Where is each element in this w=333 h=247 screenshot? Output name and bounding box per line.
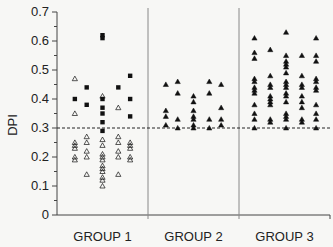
axes: 00.10.20.30.40.50.60.7GROUP 1GROUP 2GROU…: [31, 4, 330, 244]
filled-triangle-marker: [219, 117, 224, 122]
filled-triangle-marker: [252, 56, 257, 61]
filled-triangle-marker: [175, 79, 180, 84]
open-triangle-marker: [116, 154, 121, 159]
filled-triangle-marker: [299, 53, 304, 58]
filled-triangle-marker: [175, 91, 180, 96]
filled-triangle-marker: [252, 117, 257, 122]
filled-triangle-marker: [299, 99, 304, 104]
filled-triangle-marker: [314, 59, 319, 64]
filled-triangle-marker: [207, 91, 212, 96]
group-label: GROUP 1: [73, 229, 131, 244]
y-tick-label: 0.5: [31, 62, 49, 77]
scatter-chart: 00.10.20.30.40.50.60.7GROUP 1GROUP 2GROU…: [0, 0, 333, 247]
open-triangle-marker: [116, 134, 121, 139]
open-triangle-marker: [100, 183, 105, 188]
square-marker: [116, 85, 120, 89]
open-triangle-marker: [116, 140, 121, 145]
open-triangle-marker: [84, 154, 89, 159]
y-tick-label: 0.4: [31, 91, 49, 106]
y-tick-label: 0.1: [31, 178, 49, 193]
filled-triangle-marker: [219, 123, 224, 128]
group-label: GROUP 3: [255, 229, 313, 244]
square-marker: [100, 111, 104, 115]
y-tick-label: 0.2: [31, 149, 49, 164]
filled-triangle-marker: [219, 82, 224, 87]
filled-triangle-marker: [283, 53, 288, 58]
open-triangle-marker: [116, 105, 121, 110]
filled-triangle-marker: [268, 47, 273, 52]
open-triangle-marker: [84, 172, 89, 177]
filled-triangle-marker: [219, 105, 224, 110]
square-marker: [100, 120, 104, 124]
filled-triangle-marker: [314, 117, 319, 122]
filled-triangle-marker: [191, 99, 196, 104]
open-triangle-marker: [84, 149, 89, 154]
filled-triangle-marker: [314, 36, 319, 41]
filled-triangle-marker: [283, 70, 288, 75]
filled-triangle-marker: [207, 117, 212, 122]
filled-triangle-marker: [299, 73, 304, 78]
filled-triangle-marker: [314, 111, 319, 116]
filled-triangle-marker: [175, 117, 180, 122]
square-marker: [100, 129, 104, 133]
y-tick-label: 0.3: [31, 120, 49, 135]
y-tick-label: 0: [42, 207, 49, 222]
open-triangle-marker: [84, 140, 89, 145]
filled-triangle-marker: [252, 36, 257, 41]
filled-triangle-marker: [252, 111, 257, 116]
square-marker: [73, 97, 77, 101]
square-marker: [85, 103, 89, 107]
open-triangle-marker: [116, 172, 121, 177]
square-marker: [100, 97, 104, 101]
filled-triangle-marker: [207, 79, 212, 84]
filled-triangle-marker: [252, 102, 257, 107]
square-marker: [128, 97, 132, 101]
filled-triangle-marker: [252, 50, 257, 55]
filled-triangle-marker: [163, 82, 168, 87]
y-axis-label: DPI: [5, 114, 20, 136]
filled-triangle-marker: [268, 73, 273, 78]
filled-triangle-marker: [283, 30, 288, 35]
square-marker: [100, 36, 104, 40]
open-triangle-marker: [116, 149, 121, 154]
square-marker: [128, 114, 132, 118]
filled-triangle-marker: [191, 94, 196, 99]
y-tick-label: 0.6: [31, 33, 49, 48]
square-marker: [85, 85, 89, 89]
filled-triangle-marker: [163, 123, 168, 128]
open-triangle-marker: [84, 134, 89, 139]
filled-triangle-marker: [191, 108, 196, 113]
filled-triangle-marker: [299, 94, 304, 99]
square-marker: [100, 106, 104, 110]
open-triangle-marker: [100, 137, 105, 142]
square-marker: [128, 74, 132, 78]
filled-triangle-marker: [314, 102, 319, 107]
y-tick-label: 0.7: [31, 4, 49, 19]
filled-triangle-marker: [163, 114, 168, 119]
filled-triangle-marker: [314, 53, 319, 58]
open-triangle-marker: [100, 143, 105, 148]
open-triangle-marker: [72, 76, 77, 81]
data-markers: [72, 30, 318, 188]
open-triangle-marker: [72, 111, 77, 116]
group-label: GROUP 2: [164, 229, 222, 244]
filled-triangle-marker: [163, 108, 168, 113]
filled-triangle-marker: [283, 99, 288, 104]
filled-triangle-marker: [299, 105, 304, 110]
